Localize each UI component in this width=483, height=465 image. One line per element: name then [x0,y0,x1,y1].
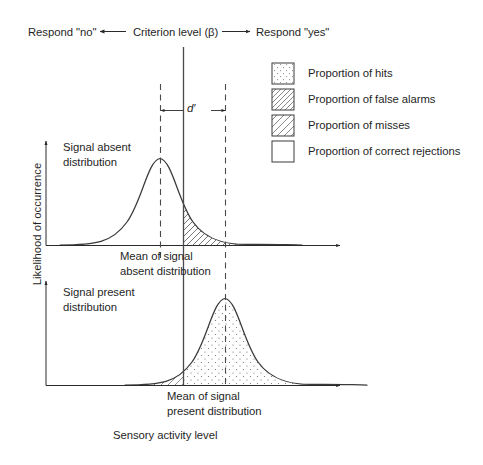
legend-label-misses: Proportion of misses [308,118,410,133]
legend-swatch-correct-rejections [272,141,294,162]
legend-label-hits: Proportion of hits [308,66,393,81]
mean-signal-absent-label: Mean of signal absent distribution [120,249,211,278]
signal-present-distribution-label: Signal present distribution [63,285,135,314]
signal-absent-distribution-label: Signal absent distribution [63,140,131,169]
x-axis-label: Sensory activity level [113,428,217,443]
respond-yes-label: Respond "yes" [256,25,329,40]
dprime-label: d′ [187,101,195,116]
signal-absent-curve [60,159,302,246]
y-axis-label: Likelihood of occurrence [31,139,43,309]
signal-detection-figure: Respond "no" Criterion level (β) Respond… [0,0,483,465]
legend-label-correct-rejections: Proportion of correct rejections [308,144,460,159]
respond-no-label: Respond "no" [28,25,96,40]
criterion-level-label: Criterion level (β) [133,25,218,40]
region-hits [183,280,373,386]
legend-group [272,63,294,162]
legend-swatch-false-alarms [272,89,294,110]
legend-swatch-hits [272,63,294,84]
legend-swatch-misses [272,115,294,136]
criterion-level-text: Criterion level (β) [133,26,218,38]
legend-label-false-alarms: Proportion of false alarms [308,92,435,107]
mean-signal-present-label: Mean of signal present distribution [167,389,261,418]
